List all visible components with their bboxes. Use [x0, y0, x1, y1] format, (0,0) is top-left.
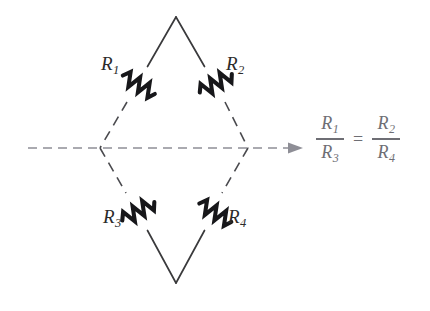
resistor-label-r3: R3	[103, 207, 121, 230]
symmetry-axis-group	[28, 143, 303, 154]
edge-top-left-solid-segment	[148, 17, 177, 67]
equation-left-fraction: R1 R3	[316, 113, 344, 165]
wheatstone-bridge-balance-diagram: R1 R2 R3 R4 R1 R3 = R2 R4	[0, 0, 430, 311]
equation-right-fraction-denominator: R4	[375, 142, 397, 165]
symmetry-axis-arrowhead-icon	[288, 143, 303, 154]
equation-right-denominator-subscript: 4	[388, 151, 395, 165]
equation-right-fraction-numerator: R2	[375, 113, 397, 136]
equation-left-denominator-subscript: 3	[332, 151, 339, 165]
resistor-label-r4: R4	[228, 207, 246, 230]
equation-right-fraction-bar	[372, 138, 400, 139]
resistor-label-r1: R1	[101, 54, 119, 77]
edge-top-right-dashed-segment	[225, 102, 248, 148]
balance-condition-equation: R1 R3 = R2 R4	[316, 113, 400, 165]
equation-left-fraction-numerator: R1	[319, 113, 341, 136]
resistor-label-r4-base: R	[228, 206, 240, 227]
equation-left-fraction-bar	[316, 138, 344, 139]
resistor-r1-zigzag-symbol	[119, 69, 158, 100]
equation-right-numerator-base: R	[377, 113, 388, 133]
equation-right-denominator-base: R	[377, 142, 388, 162]
equation-left-fraction-denominator: R3	[319, 142, 341, 165]
edge-bottom-right-dashed-segment	[222, 148, 248, 193]
resistor-label-r2-subscript: 2	[238, 63, 245, 77]
resistor-label-r1-base: R	[101, 53, 113, 74]
resistor-label-r3-base: R	[103, 206, 115, 227]
edge-top-right-solid-segment	[176, 17, 205, 67]
resistor-label-r2: R2	[226, 54, 244, 77]
equation-left-numerator-subscript: 1	[332, 122, 339, 136]
edge-bottom-left-solid-segment	[148, 231, 177, 284]
equation-left-denominator-base: R	[321, 142, 332, 162]
equation-right-fraction: R2 R4	[372, 113, 400, 165]
resistor-label-r2-base: R	[226, 53, 238, 74]
edge-top-left-dashed-segment	[100, 102, 127, 148]
equation-left-numerator-base: R	[321, 113, 332, 133]
edge-bottom-right-solid-segment	[176, 231, 205, 284]
resistor-r3-zigzag-symbol	[119, 196, 158, 227]
equation-right-numerator-subscript: 2	[388, 122, 395, 136]
equation-equals-sign: =	[351, 129, 365, 150]
edge-bottom-left-dashed-segment	[100, 148, 126, 193]
resistor-label-r4-subscript: 4	[240, 216, 247, 230]
resistor-label-r3-subscript: 3	[115, 216, 122, 230]
resistor-label-r1-subscript: 1	[113, 63, 120, 77]
